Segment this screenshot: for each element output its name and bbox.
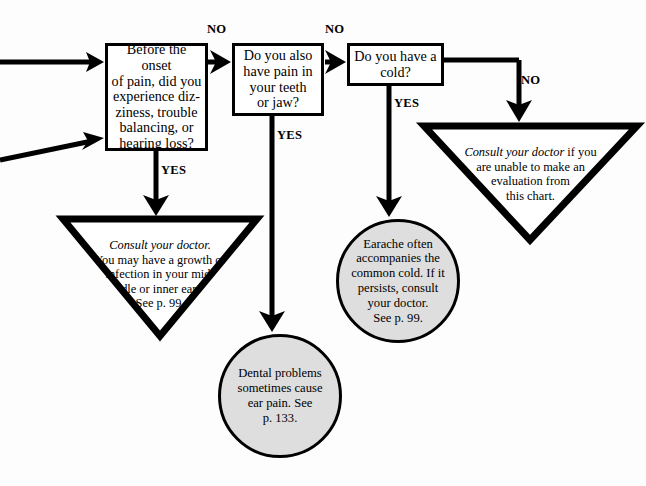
dental-line4: p. 133.: [238, 411, 323, 426]
earache-line3: common cold. If it: [351, 266, 445, 281]
tri-right-line2: are unable to make an: [457, 160, 604, 175]
flowchart-page: Before the onset of pain, did you experi…: [0, 0, 646, 486]
edge-no-3-arrow: [441, 60, 532, 122]
box2-line1: Do you also: [238, 48, 318, 64]
tri-right-line4: this chart.: [457, 189, 604, 204]
dental-line3: ear pain. See: [238, 396, 323, 411]
advice-triangle-left-text: Consult your doctor. You may have a grow…: [60, 238, 260, 311]
box1-line5: balancing, or: [111, 120, 202, 136]
decision-box-cold[interactable]: Do you have a cold?: [347, 43, 444, 86]
tri-left-line2: infection in your mid-: [94, 267, 226, 282]
outcome-circle-dental-text: Dental problems sometimes cause ear pain…: [226, 366, 335, 425]
box1-line2: of pain, did you: [111, 74, 202, 90]
edge-no-1-arrow: [208, 50, 231, 74]
edge-yes-2-arrow: [259, 116, 285, 332]
decision-box-teeth-text: Do you also have pain in your teeth or j…: [235, 48, 321, 110]
box1-line3: experience diz-: [111, 89, 202, 105]
edge-label-yes-3: YES: [394, 96, 419, 111]
earache-line2: accompanies the: [351, 251, 445, 266]
box1-line6: hearing loss?: [111, 136, 202, 152]
edge-label-no-3: NO: [521, 73, 540, 88]
edge-in-top-arrow: [0, 52, 104, 72]
earache-line1: Earache often: [351, 237, 445, 252]
earache-line4: persists, consult: [351, 281, 445, 296]
outcome-circle-earache-text: Earache often accompanies the common col…: [339, 237, 457, 326]
tri-left-line3: dle or inner ear.: [94, 282, 226, 297]
edge-label-yes-2: YES: [277, 128, 302, 143]
box1-line1: Before the onset: [111, 42, 202, 73]
decision-box-dizziness[interactable]: Before the onset of pain, did you experi…: [105, 43, 208, 151]
box2-line2: have pain in: [238, 64, 318, 80]
tri-right-emphasis: Consult your doctor: [464, 145, 564, 159]
edge-in-bottom-arrow: [0, 132, 104, 160]
decision-box-dizziness-text: Before the onset of pain, did you experi…: [108, 42, 205, 151]
tri-left-line4: See p. 99.: [94, 296, 226, 311]
box2-line4: or jaw?: [238, 95, 318, 111]
tri-left-emphasis: Consult your doctor.: [109, 238, 211, 252]
dental-line2: sometimes cause: [238, 381, 323, 396]
earache-line6: See p. 99.: [351, 311, 445, 326]
edge-label-no-1: NO: [207, 22, 226, 37]
edge-label-no-2: NO: [325, 22, 344, 37]
box3-line2: cold?: [353, 65, 438, 81]
decision-box-teeth[interactable]: Do you also have pain in your teeth or j…: [232, 43, 324, 116]
dental-line1: Dental problems: [238, 366, 323, 381]
box3-line1: Do you have a: [353, 49, 438, 65]
outcome-circle-earache[interactable]: Earache often accompanies the common col…: [336, 219, 460, 343]
decision-box-cold-text: Do you have a cold?: [350, 49, 441, 80]
tri-right-line1: if you: [564, 145, 596, 159]
box1-line4: ziness, trouble: [111, 105, 202, 121]
advice-triangle-left[interactable]: Consult your doctor. You may have a grow…: [60, 214, 260, 338]
edge-label-yes-1: YES: [161, 163, 186, 178]
outcome-circle-dental[interactable]: Dental problems sometimes cause ear pain…: [218, 334, 342, 458]
edge-yes-1-arrow: [143, 151, 169, 216]
advice-triangle-right[interactable]: Consult your doctor if you are unable to…: [421, 121, 640, 243]
earache-line5: your doctor.: [351, 296, 445, 311]
advice-triangle-right-text: Consult your doctor if you are unable to…: [421, 145, 640, 203]
edge-no-2-arrow: [325, 50, 346, 74]
box2-line3: your teeth: [238, 80, 318, 96]
tri-right-line3: evaluation from: [457, 174, 604, 189]
tri-left-line1: You may have a growth or: [94, 253, 226, 268]
